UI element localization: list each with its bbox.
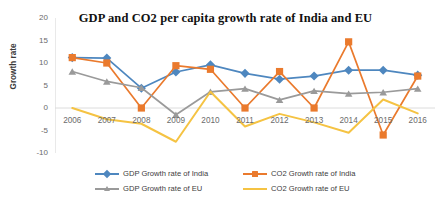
y-axis-tick-label: 10: [22, 59, 48, 67]
data-point-marker: [138, 104, 145, 111]
data-point-marker: [344, 66, 353, 75]
y-axis-tick-labels: 20151050-5-10: [22, 0, 48, 210]
data-point-marker: [69, 54, 76, 61]
legend-swatch-co2-india: [243, 169, 267, 179]
legend-item-co2-india[interactable]: CO2 Growth rate of India: [243, 169, 395, 179]
legend-line-co2-eu: [243, 188, 267, 190]
legend-label-gdp-eu: GDP Growth rate of EU: [122, 184, 202, 193]
data-point-marker: [310, 72, 319, 81]
legend-swatch-co2-eu: [243, 184, 267, 194]
legend-label-co2-eu: CO2 Growth rate of EU: [270, 184, 350, 193]
x-axis-tick-label: 2016: [398, 116, 437, 125]
legend-row-bottom: GDP Growth rate of EU CO2 Growth rate of…: [95, 181, 395, 196]
data-point-marker: [241, 104, 248, 111]
legend-swatch-gdp-eu: [95, 184, 119, 194]
chart-container: GDP and CO2 per capita growth rate of In…: [0, 0, 437, 210]
data-point-marker: [380, 131, 387, 138]
x-axis-tick-labels: 2006200720082009201020112012201320142015…: [55, 116, 435, 130]
data-point-marker: [276, 68, 283, 75]
data-point-marker: [345, 38, 352, 45]
data-point-marker: [240, 69, 249, 78]
legend-label-gdp-india: GDP Growth rate of India: [122, 169, 208, 178]
plot-area: [55, 18, 435, 153]
data-point-marker: [379, 66, 388, 75]
y-axis-title: Growth rate: [9, 32, 18, 102]
legend-marker-co2-india: [252, 171, 258, 177]
legend-marker-gdp-india: [103, 169, 111, 177]
legend-item-gdp-india[interactable]: GDP Growth rate of India: [95, 169, 243, 179]
series-canvas: [55, 18, 435, 153]
y-axis-tick-label: -5: [22, 127, 48, 135]
legend-item-gdp-eu[interactable]: GDP Growth rate of EU: [95, 184, 243, 194]
legend-item-co2-eu[interactable]: CO2 Growth rate of EU: [243, 184, 395, 194]
y-axis-tick-label: 5: [22, 82, 48, 90]
legend-row-top: GDP Growth rate of India CO2 Growth rate…: [95, 166, 395, 181]
data-point-marker: [172, 62, 179, 69]
data-point-marker: [207, 66, 214, 73]
chart-legend: GDP Growth rate of India CO2 Growth rate…: [95, 166, 395, 200]
data-point-marker: [103, 59, 110, 66]
y-axis-tick-label: 0: [22, 104, 48, 112]
legend-label-co2-india: CO2 Growth rate of India: [270, 169, 355, 178]
y-axis-tick-label: 15: [22, 37, 48, 45]
legend-swatch-gdp-india: [95, 169, 119, 179]
data-point-marker: [414, 72, 421, 79]
y-axis-tick-label: -10: [22, 149, 48, 157]
y-axis-tick-label: 20: [22, 14, 48, 22]
data-point-marker: [310, 104, 317, 111]
legend-marker-gdp-eu: [104, 186, 110, 191]
